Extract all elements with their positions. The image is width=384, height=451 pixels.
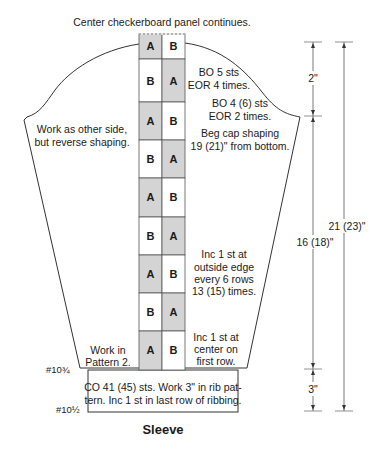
diagram-title: Sleeve [142,422,183,437]
panel-continues-note: Center checkerboard panel continues. [73,16,250,28]
cell-label: B [147,306,155,318]
cell-label: A [170,230,178,242]
work-in-pattern-note: Work in Pattern 2. [85,344,131,368]
cell-label: A [170,153,178,165]
dimension-total-length: 21 (23)" [329,220,366,232]
checkerboard-panel: A B B A A B B A A B B A A B B A A B [139,34,185,370]
svg-text:Pattern 2.: Pattern 2. [85,356,131,368]
svg-text:CO 41 (45) sts. Work 3" in rib: CO 41 (45) sts. Work 3" in rib pat- [84,381,242,393]
sleeve-cap-left-curve [24,44,139,368]
begin-cap-shaping-note: Beg cap shaping 19 (21)" from bottom. [191,127,290,152]
bind-off-4-note: BO 4 (6) sts EOR 2 times. [209,97,271,122]
cell-label: A [170,306,178,318]
increase-center-note: Inc 1 st at center on first row. [193,331,239,367]
svg-text:Work as other side,: Work as other side, [37,123,127,135]
cell-label: B [170,115,178,127]
cell-label: A [147,40,155,52]
increase-outside-note: Inc 1 st at outside edge every 6 rows 13… [192,248,256,297]
cuff-note: CO 41 (45) sts. Work 3" in rib pat- tern… [84,381,242,406]
dimension-body-length: 16 (18)" [297,236,334,248]
svg-text:BO 4 (6) sts: BO 4 (6) sts [212,97,268,109]
svg-text:every 6 rows: every 6 rows [194,273,254,285]
sleeve-cap-right-curve [185,43,300,368]
svg-text:center on: center on [194,343,238,355]
cell-label: B [147,230,155,242]
cell-label: A [147,191,155,203]
cell-label: B [170,268,178,280]
cell-label: B [170,191,178,203]
svg-text:Beg cap shaping: Beg cap shaping [201,127,279,139]
svg-text:13 (15) times.: 13 (15) times. [192,285,256,297]
needle-size-upper: #10¾ [46,364,71,375]
svg-text:outside edge: outside edge [194,261,254,273]
cell-label: B [170,40,178,52]
cell-label: B [147,75,155,87]
cell-label: A [147,344,155,356]
needle-size-lower: #10½ [56,404,80,415]
svg-text:EOR 4 times.: EOR 4 times. [188,79,250,91]
svg-text:EOR 2 times.: EOR 2 times. [209,110,271,122]
cell-label: A [147,115,155,127]
svg-text:19 (21)" from bottom.: 19 (21)" from bottom. [191,140,290,152]
dimension-cuff-height: 3" [308,383,318,395]
svg-text:Work in: Work in [90,344,126,356]
cell-label: B [147,153,155,165]
dimension-cap-height: 2" [308,72,318,84]
sleeve-schematic: Center checkerboard panel continues. A [0,0,384,451]
svg-text:Inc 1 st at: Inc 1 st at [193,331,239,343]
svg-text:first row.: first row. [196,355,235,367]
cell-label: B [170,344,178,356]
svg-text:but reverse shaping.: but reverse shaping. [34,136,129,148]
cell-label: A [170,75,178,87]
svg-text:Inc 1 st at: Inc 1 st at [201,248,247,260]
svg-text:BO 5 sts: BO 5 sts [199,66,239,78]
bind-off-5-note: BO 5 sts EOR 4 times. [188,66,250,91]
left-cap-note: Work as other side, but reverse shaping. [34,123,129,148]
svg-text:tern. Inc 1 st in last row of: tern. Inc 1 st in last row of ribbing. [85,394,242,406]
cell-label: A [147,268,155,280]
